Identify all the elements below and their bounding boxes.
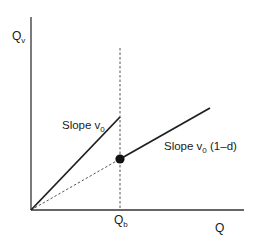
y-axis-label: Qv bbox=[12, 29, 25, 45]
projection-dashed-line bbox=[31, 159, 120, 210]
slope-v0-1-d-label: Slope v0 (1–d) bbox=[164, 140, 237, 155]
breakpoint-dot bbox=[115, 154, 124, 163]
breakpoint-label: Qb bbox=[114, 213, 128, 229]
breakpoint-diagram: Qv Q Qb Slope v0 Slope v0 (1–d) bbox=[0, 0, 257, 242]
slope-v0-label: Slope v0 bbox=[62, 119, 105, 134]
x-axis-label: Q bbox=[215, 221, 224, 235]
